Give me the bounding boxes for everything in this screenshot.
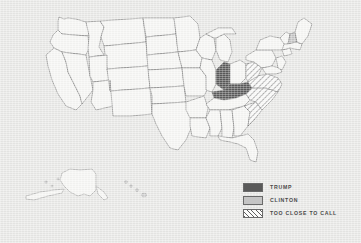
alaska-panhandle [96, 186, 108, 200]
legend-item-trump: TRUMP [243, 182, 337, 193]
state-michigan [216, 34, 232, 62]
legend-item-clinton: CLINTON [243, 195, 337, 206]
legend-swatch-too-close-to-call [243, 209, 263, 218]
state-ohio [230, 60, 246, 84]
hawaii-island-big [141, 193, 146, 197]
alaska-island [45, 181, 47, 183]
lower-48-states [46, 16, 312, 162]
hawaii-island-maui [136, 189, 139, 192]
hawaii-island-oahu [130, 185, 133, 188]
legend-item-too-close-to-call: TOO CLOSE TO CALL [243, 208, 337, 219]
state-washington [58, 17, 89, 36]
alaska-island [51, 185, 53, 187]
alaska-aleutians [26, 189, 64, 200]
alaska-island [57, 178, 59, 180]
state-montana [100, 18, 146, 46]
state-south-dakota [146, 34, 178, 55]
map-figure: TRUMP CLINTON TOO CLOSE TO CALL [0, 0, 361, 243]
legend-label-too-close-to-call: TOO CLOSE TO CALL [270, 211, 337, 216]
state-oklahoma [150, 86, 186, 104]
state-georgia [232, 106, 250, 136]
state-wyoming [104, 42, 148, 69]
state-florida [218, 134, 258, 162]
state-minnesota [174, 16, 200, 52]
hawaii-inset [125, 181, 147, 197]
state-north-dakota [143, 18, 176, 37]
legend-label-trump: TRUMP [270, 185, 292, 190]
hawaii-island-kauai [125, 181, 128, 184]
state-alaska [60, 169, 96, 196]
state-alabama [220, 110, 234, 138]
state-colorado [107, 66, 150, 91]
legend-swatch-clinton [243, 196, 263, 205]
legend-label-clinton: CLINTON [270, 198, 298, 203]
state-nebraska [147, 52, 182, 70]
state-kansas [148, 68, 184, 88]
legend-swatch-trump [243, 183, 263, 192]
state-arkansas [186, 96, 208, 118]
legend: TRUMP CLINTON TOO CLOSE TO CALL [243, 182, 337, 221]
state-utah [89, 55, 110, 82]
alaska-inset [26, 169, 108, 200]
state-maine [295, 18, 312, 44]
state-idaho [86, 21, 104, 57]
